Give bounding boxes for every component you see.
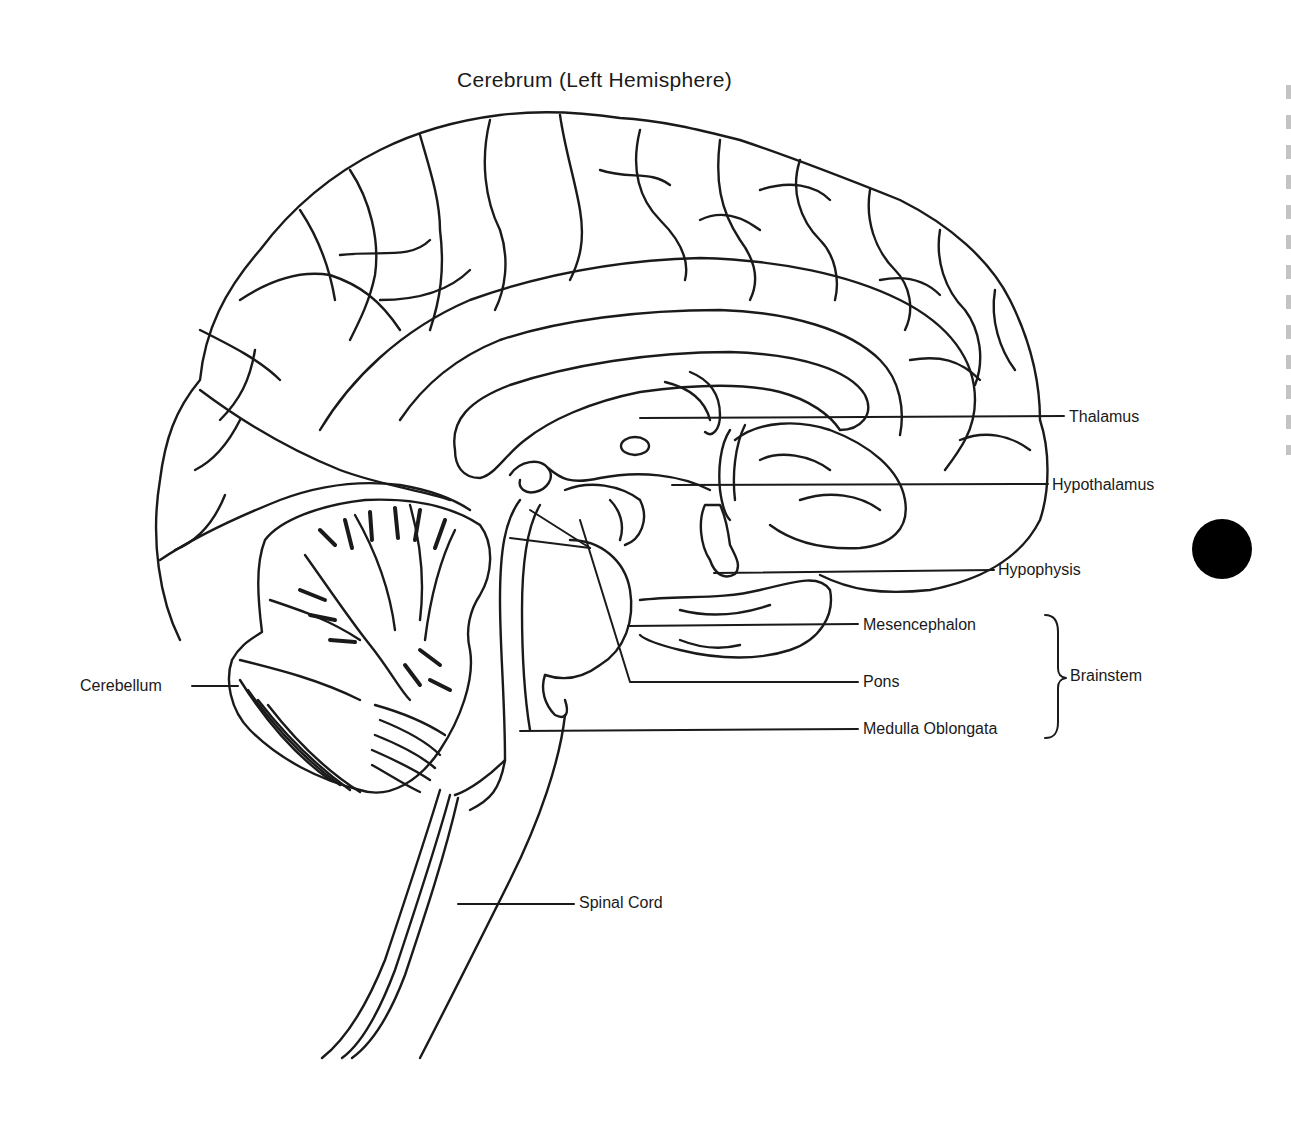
spinal-cord-posterior-3	[352, 798, 458, 1058]
brain-illustration	[0, 0, 1291, 1121]
brainstem-brace	[1045, 615, 1066, 738]
temporal-lobe	[735, 423, 906, 548]
label-medulla-oblongata: Medulla Oblongata	[863, 720, 997, 738]
label-spinal-cord: Spinal Cord	[579, 894, 663, 912]
label-hypophysis: Hypophysis	[998, 561, 1081, 579]
cerebrum-outline	[156, 112, 1047, 640]
fornix	[690, 372, 720, 434]
label-cerebellum: Cerebellum	[80, 677, 162, 695]
pons-outline	[545, 540, 631, 678]
label-thalamus: Thalamus	[1069, 408, 1139, 426]
label-pons: Pons	[863, 673, 899, 691]
leader-hypothalamus	[672, 484, 1048, 485]
cingulate-gyrus	[320, 258, 975, 470]
label-hypothalamus: Hypothalamus	[1052, 476, 1154, 494]
label-brainstem: Brainstem	[1070, 667, 1142, 685]
medulla-outline	[543, 675, 567, 717]
leader-hypophysis	[714, 570, 994, 573]
hypophysis	[701, 505, 738, 576]
mesencephalon-outline	[565, 485, 644, 545]
thalamus-body	[621, 437, 649, 455]
black-circle-marker	[1192, 519, 1252, 579]
label-mesencephalon: Mesencephalon	[863, 616, 976, 634]
leader-thalamus	[640, 416, 1064, 418]
brain-diagram: Cerebrum (Left Hemisphere)	[0, 0, 1291, 1121]
cerebellum-outline	[229, 500, 490, 793]
spinal-cord-anterior	[420, 715, 565, 1058]
page-edge-artifact	[1286, 85, 1291, 455]
leader-medulla	[520, 729, 858, 731]
